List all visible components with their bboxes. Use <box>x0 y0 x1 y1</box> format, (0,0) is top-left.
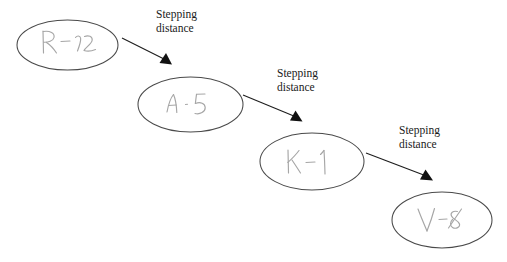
node-handwriting-1 <box>43 31 96 53</box>
edge-group-2 <box>243 95 303 122</box>
node-ellipse-3 <box>260 133 364 190</box>
edge-line-2 <box>243 95 295 117</box>
node-ellipse-2 <box>138 77 243 132</box>
edge-arrowhead-2 <box>290 111 303 122</box>
node-k-1[interactable] <box>260 133 364 190</box>
edge-label-stepping-distance-3: Stepping distance <box>399 124 440 151</box>
edge-line-3 <box>366 153 425 176</box>
node-handwriting-4 <box>418 209 462 232</box>
edge-label-stepping-distance-1: Stepping distance <box>156 8 197 35</box>
edge-line-1 <box>122 38 165 60</box>
edge-group-3 <box>366 153 433 181</box>
node-handwriting-2 <box>167 94 205 114</box>
node-v-8[interactable] <box>392 192 492 248</box>
edge-label-stepping-distance-2: Stepping distance <box>277 67 318 94</box>
node-ellipse-1 <box>17 20 118 70</box>
node-handwriting-3 <box>288 150 325 174</box>
edge-group-1 <box>122 38 172 65</box>
node-r-12[interactable] <box>17 20 118 70</box>
node-a-5[interactable] <box>138 77 243 132</box>
edge-arrowhead-1 <box>160 53 173 65</box>
edge-arrowhead-3 <box>420 170 433 181</box>
diagram-canvas: Stepping distance Stepping distance Step… <box>0 0 507 262</box>
node-ellipse-4 <box>392 192 492 248</box>
